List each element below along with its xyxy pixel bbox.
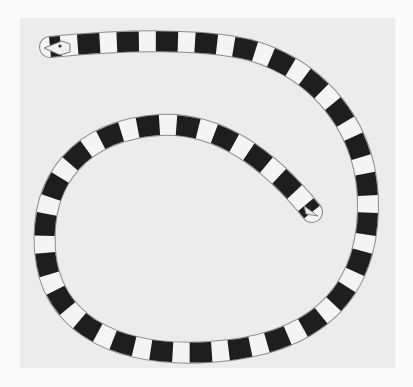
eel-eye [58, 44, 61, 47]
photo-frame: banded eel [0, 0, 413, 387]
eel-illustration [0, 0, 413, 387]
